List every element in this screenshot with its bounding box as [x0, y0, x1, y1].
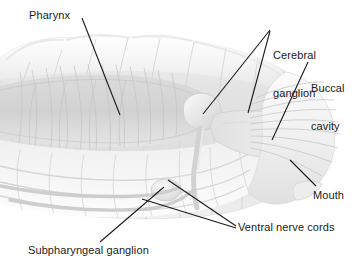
label-buccal-cavity-line2: cavity — [311, 120, 345, 133]
label-mouth: Mouth — [313, 189, 344, 202]
label-pharynx: Pharynx — [29, 9, 70, 22]
label-cerebral-ganglion: Cerebral ganglion — [273, 24, 316, 124]
label-ventral-nerve-cords: Ventral nerve cords — [238, 221, 335, 234]
label-cerebral-ganglion-line2: ganglion — [273, 87, 316, 100]
label-buccal-cavity: Buccal cavity — [311, 57, 345, 157]
label-subpharyngeal-ganglion: Subpharyngeal ganglion — [28, 244, 149, 257]
label-buccal-cavity-line1: Buccal — [311, 82, 345, 95]
anatomy-figure: Pharynx Cerebral ganglion Buccal cavity … — [0, 0, 360, 267]
label-cerebral-ganglion-line1: Cerebral — [273, 49, 316, 62]
